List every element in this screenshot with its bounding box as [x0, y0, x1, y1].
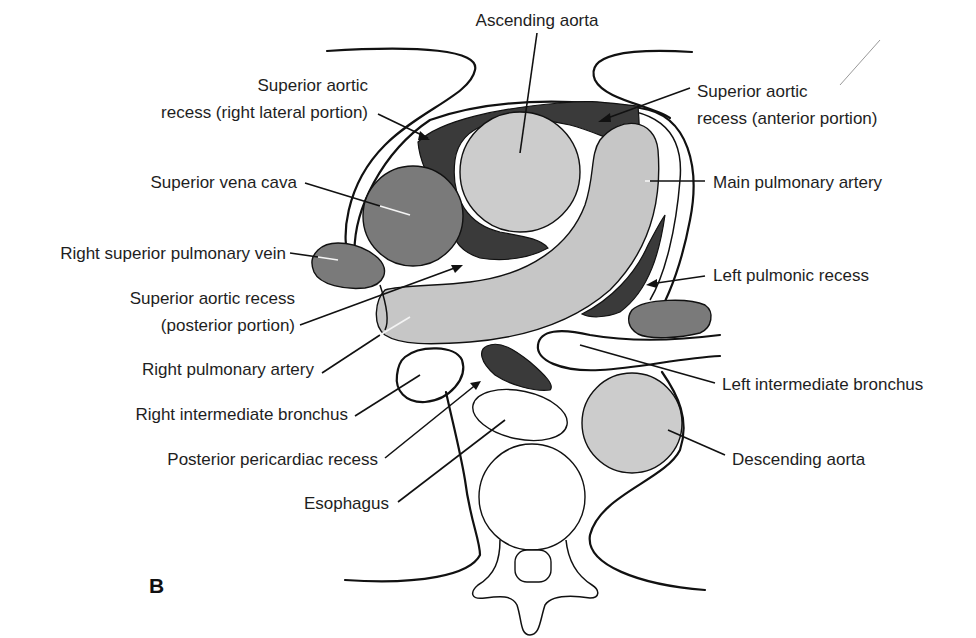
label-sar-right-lateral-line2: recess (right lateral portion) — [161, 103, 368, 122]
label-descending-aorta: Descending aorta — [732, 450, 866, 469]
label-esophagus: Esophagus — [304, 494, 389, 513]
label-right-superior-pulmonary-vein: Right superior pulmonary vein — [60, 244, 286, 263]
superior-vena-cava-shape — [363, 166, 463, 266]
right-intermediate-bronchus-shape — [397, 348, 463, 402]
ascending-aorta-shape — [460, 112, 580, 232]
left-intermediate-bronchus-shape — [538, 331, 720, 370]
vertebral-body-shape — [479, 444, 585, 550]
posterior-pericardiac-recess-shape — [482, 344, 552, 390]
descending-aorta-shape — [582, 373, 682, 473]
label-left-intermediate-bronchus: Left intermediate bronchus — [722, 375, 923, 394]
right-superior-pulmonary-vein-shape — [312, 243, 385, 288]
label-posterior-pericardiac-recess: Posterior pericardiac recess — [167, 450, 378, 469]
label-main-pulmonary-artery: Main pulmonary artery — [713, 173, 883, 192]
label-sar-posterior-line2: (posterior portion) — [161, 316, 295, 335]
label-sar-anterior-line2: recess (anterior portion) — [697, 109, 877, 128]
panel-letter: B — [149, 574, 164, 597]
label-sar-right-lateral-line1: Superior aortic — [257, 76, 368, 95]
label-right-pulmonary-artery: Right pulmonary artery — [142, 360, 314, 379]
label-sar-posterior-line1: Superior aortic recess — [130, 289, 295, 308]
label-superior-vena-cava: Superior vena cava — [151, 173, 298, 192]
anatomy-diagram: Ascending aorta Superior aortic recess (… — [0, 0, 976, 638]
label-right-intermediate-bronchus: Right intermediate bronchus — [135, 405, 348, 424]
label-sar-anterior-line1: Superior aortic — [697, 82, 808, 101]
left-pulmonary-vein-shape — [629, 300, 711, 337]
esophagus-shape — [468, 382, 572, 449]
label-left-pulmonic-recess: Left pulmonic recess — [713, 266, 869, 285]
spinal-canal-shape — [515, 550, 551, 582]
right-pleura-line — [345, 392, 480, 581]
label-ascending-aorta: Ascending aorta — [476, 11, 599, 30]
